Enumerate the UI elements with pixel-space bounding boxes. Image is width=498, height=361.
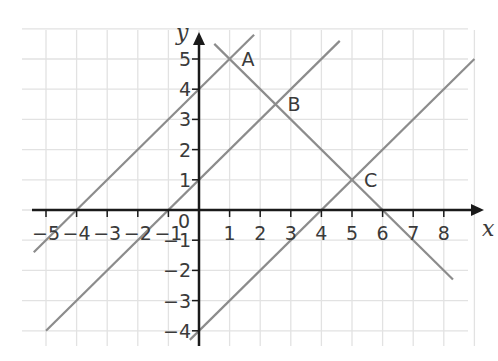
axes bbox=[32, 32, 484, 346]
tick-marks bbox=[46, 59, 444, 331]
y-tick-label: −1 bbox=[163, 229, 191, 251]
series-line bbox=[46, 41, 340, 331]
tick-labels: −5−4−3−2−112345678−4−3−2−112345 bbox=[32, 48, 450, 342]
x-tick-label: −2 bbox=[124, 222, 152, 244]
series-line bbox=[214, 44, 453, 280]
y-axis-label: y bbox=[175, 20, 189, 45]
plotted-lines bbox=[34, 35, 475, 340]
x-tick-label: −3 bbox=[93, 222, 121, 244]
point-label-c: C bbox=[364, 169, 377, 191]
coordinate-plot: −5−4−3−2−112345678−4−3−2−112345 x y 0 AB… bbox=[0, 0, 498, 361]
x-tick-label: 6 bbox=[377, 222, 389, 244]
y-axis-arrow-icon bbox=[193, 32, 205, 45]
x-axis-label: x bbox=[482, 216, 495, 241]
y-tick-label: 1 bbox=[179, 169, 191, 191]
x-tick-label: 8 bbox=[438, 222, 450, 244]
x-tick-label: 7 bbox=[407, 222, 419, 244]
y-tick-label: −3 bbox=[163, 290, 191, 312]
y-tick-label: −4 bbox=[163, 320, 191, 342]
x-tick-label: −5 bbox=[32, 222, 60, 244]
x-tick-label: −4 bbox=[63, 222, 91, 244]
y-tick-label: −2 bbox=[163, 259, 191, 281]
origin-label: 0 bbox=[178, 210, 190, 232]
y-tick-label: 4 bbox=[179, 78, 191, 100]
point-label-b: B bbox=[288, 93, 301, 115]
y-tick-label: 5 bbox=[179, 48, 191, 70]
x-axis-arrow-icon bbox=[471, 204, 484, 216]
x-tick-label: 1 bbox=[224, 222, 236, 244]
y-tick-label: 3 bbox=[179, 108, 191, 130]
x-tick-label: 2 bbox=[254, 222, 266, 244]
x-tick-label: 5 bbox=[346, 222, 358, 244]
x-tick-label: 3 bbox=[285, 222, 297, 244]
point-label-a: A bbox=[242, 48, 255, 70]
x-tick-label: 4 bbox=[315, 222, 327, 244]
y-tick-label: 2 bbox=[179, 139, 191, 161]
series-line bbox=[34, 35, 254, 252]
series-line bbox=[190, 59, 475, 340]
